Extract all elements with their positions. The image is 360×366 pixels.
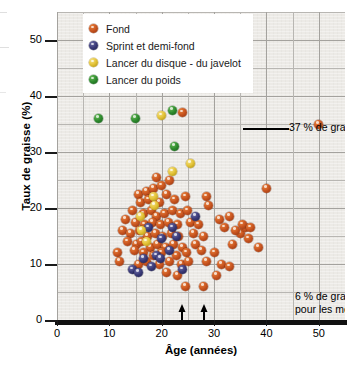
legend-item-lancer-disque[interactable]: Lancer du disque - du javelot bbox=[89, 54, 245, 71]
data-point-sprint bbox=[172, 232, 181, 241]
y-axis-tick bbox=[45, 152, 57, 154]
data-point-fond bbox=[202, 192, 211, 201]
data-point-lancer-disque bbox=[150, 201, 159, 210]
gridline-horizontal bbox=[57, 96, 345, 97]
legend-label-lancer-poids: Lancer du poids bbox=[106, 74, 181, 86]
x-axis-tick bbox=[162, 320, 163, 326]
x-axis-tick-label: 40 bbox=[251, 327, 281, 339]
data-point-sprint bbox=[157, 234, 166, 243]
y-axis-tick bbox=[45, 264, 57, 266]
y-axis-tick bbox=[45, 320, 57, 322]
data-point-lancer-disque bbox=[186, 159, 195, 168]
x-axis-tick-label: 0 bbox=[42, 327, 72, 339]
gridline-horizontal bbox=[57, 180, 345, 181]
legend-label-fond: Fond bbox=[106, 23, 130, 35]
data-point-fond bbox=[212, 271, 221, 280]
legend-item-lancer-poids[interactable]: Lancer du poids bbox=[89, 71, 245, 88]
gridline-vertical bbox=[57, 12, 58, 320]
legend-marker-sprint-icon bbox=[89, 41, 98, 50]
gridline-horizontal bbox=[57, 12, 345, 13]
data-point-lancer-poids bbox=[94, 114, 103, 123]
data-point-fond bbox=[220, 223, 229, 232]
x-axis-tick bbox=[266, 320, 267, 326]
data-point-fond bbox=[121, 215, 130, 224]
x-axis-tick-label: 20 bbox=[147, 327, 177, 339]
y-axis-tick-label: 0 bbox=[12, 313, 42, 325]
gridline-vertical bbox=[319, 12, 320, 320]
data-point-fond bbox=[197, 246, 206, 255]
data-point-fond bbox=[182, 248, 191, 257]
data-point-fond bbox=[204, 201, 213, 210]
x-axis-tick-label: 30 bbox=[199, 327, 229, 339]
y-axis-tick-label: 10 bbox=[12, 257, 42, 269]
data-point-sprint bbox=[168, 223, 177, 232]
data-point-fond bbox=[246, 223, 255, 232]
y-axis-tick bbox=[45, 96, 57, 98]
legend-item-fond[interactable]: Fond bbox=[89, 20, 245, 37]
gridline-horizontal bbox=[57, 264, 345, 265]
annotation-leader-line-37 bbox=[243, 128, 289, 130]
data-point-lancer-disque bbox=[157, 111, 166, 120]
y-axis-title: Taux de graisse (%) bbox=[20, 66, 32, 246]
data-point-lancer-disque bbox=[142, 237, 151, 246]
x-axis-tick-label: 10 bbox=[94, 327, 124, 339]
gridline-horizontal bbox=[57, 152, 345, 153]
data-point-lancer-disque bbox=[168, 167, 177, 176]
data-point-sprint bbox=[165, 246, 174, 255]
data-point-lancer-poids bbox=[131, 114, 140, 123]
data-point-fond bbox=[215, 215, 224, 224]
data-point-fond bbox=[123, 237, 132, 246]
data-point-fond bbox=[199, 282, 208, 291]
x-axis-tick bbox=[57, 320, 58, 326]
data-point-fond bbox=[225, 212, 234, 221]
x-axis-tick bbox=[109, 320, 110, 326]
data-point-sprint bbox=[134, 268, 143, 277]
page-edge-artifact-1 bbox=[0, 12, 7, 13]
data-point-fond bbox=[262, 184, 271, 193]
legend-item-sprint[interactable]: Sprint et demi-fond bbox=[89, 37, 245, 54]
data-point-fond bbox=[210, 248, 219, 257]
legend-marker-lancer-disque-icon bbox=[89, 58, 98, 67]
legend-marker-lancer-poids-icon bbox=[89, 75, 98, 84]
data-point-fond bbox=[165, 176, 174, 185]
x-axis-tick bbox=[319, 320, 320, 326]
data-point-fond bbox=[130, 246, 139, 255]
page-edge-artifact-3 bbox=[0, 92, 6, 93]
data-point-fond bbox=[202, 257, 211, 266]
data-point-fond bbox=[170, 195, 179, 204]
gridline-vertical bbox=[266, 12, 267, 320]
annotation-arrows-6-percent bbox=[177, 294, 297, 320]
y-axis-tick bbox=[45, 208, 57, 210]
data-point-fond bbox=[254, 243, 263, 252]
data-point-fond bbox=[178, 108, 187, 117]
chart-legend: Fond Sprint et demi-fond Lancer du disqu… bbox=[83, 14, 253, 93]
data-point-fond bbox=[162, 268, 171, 277]
scatter-chart-figure: 37 % de graisse 6 % de graisse pour les … bbox=[0, 0, 360, 366]
data-point-fond bbox=[165, 257, 174, 266]
data-point-sprint bbox=[147, 262, 156, 271]
x-axis-tick bbox=[214, 320, 215, 326]
plot-area: 37 % de graisse 6 % de graisse pour les … bbox=[57, 12, 345, 320]
data-point-lancer-poids bbox=[168, 106, 177, 115]
data-point-lancer-poids bbox=[170, 142, 179, 151]
data-point-fond bbox=[157, 181, 166, 190]
annotation-label-37-percent: 37 % de graisse bbox=[289, 121, 345, 134]
legend-label-sprint: Sprint et demi-fond bbox=[106, 40, 195, 52]
annotation-label-6-percent-line2: pour les meilleures bbox=[295, 303, 345, 315]
y-axis-tick bbox=[45, 40, 57, 42]
data-point-fond bbox=[189, 229, 198, 238]
annotation-label-6-percent-line1: 6 % de graisse bbox=[295, 290, 345, 302]
gridline-vertical bbox=[293, 12, 294, 320]
data-point-sprint bbox=[178, 265, 187, 274]
data-point-fond bbox=[199, 232, 208, 241]
annotation-label-6-percent: 6 % de graisse pour les meilleures bbox=[295, 290, 345, 316]
data-point-fond bbox=[181, 282, 190, 291]
legend-label-lancer-disque: Lancer du disque - du javelot bbox=[106, 57, 241, 69]
x-axis-title: Âge (années) bbox=[57, 344, 345, 356]
data-point-fond bbox=[228, 240, 237, 249]
data-point-fond bbox=[244, 234, 253, 243]
y-axis-tick-label: 50 bbox=[12, 33, 42, 45]
y-axis-line bbox=[55, 12, 57, 320]
data-point-sprint bbox=[156, 254, 165, 263]
x-axis-line bbox=[55, 320, 347, 325]
